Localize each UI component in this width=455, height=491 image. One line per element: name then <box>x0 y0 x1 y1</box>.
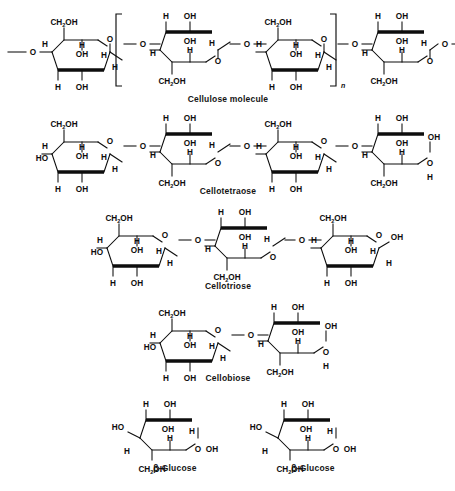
label-oh: OH <box>300 425 312 434</box>
label-ch2oh: CH2OH <box>370 179 397 189</box>
label-oh: OH <box>76 50 88 59</box>
label-oh: OH <box>184 12 196 21</box>
atom-o-ring: O <box>427 57 434 66</box>
atom-h: H <box>281 400 287 409</box>
caption-cellulose: Cellulose molecule <box>188 94 269 104</box>
row-glucose-right: O OH HO CH2OH H OH OH H H H <box>248 396 358 462</box>
label-ch2oh: CH2OH <box>319 214 346 224</box>
atom-h: H <box>399 46 405 55</box>
atom-h: H <box>324 279 330 288</box>
atom-o-ring: O <box>323 348 330 357</box>
label-oh-anomeric: OH <box>206 445 218 454</box>
label-oh: OH <box>184 341 196 350</box>
atom-o-ring: O <box>270 253 277 262</box>
label-oh-terminal: OH <box>428 133 440 142</box>
atom-o-ring: O <box>333 445 340 454</box>
atom-o-ring: O <box>376 231 383 240</box>
label-ch2oh: CH2OH <box>158 77 185 87</box>
label-oh: OH <box>131 279 143 288</box>
label-oh: OH <box>302 400 314 409</box>
atom-h: H <box>262 447 268 456</box>
caption-cellotriose: Cellotriose <box>205 281 251 291</box>
atom-h: H <box>315 153 321 162</box>
atom-h: H <box>55 83 61 92</box>
label-oh: OH <box>396 139 408 148</box>
atom-h: H <box>79 143 85 152</box>
atom-h: H <box>134 237 140 246</box>
label-ho-terminal: HO <box>112 423 125 432</box>
atom-h: H <box>375 114 381 123</box>
label-ch2oh: CH2OH <box>158 309 185 319</box>
atom-o-ring: O <box>215 159 222 168</box>
atom-h: H <box>150 49 156 58</box>
atom-h: H <box>323 362 329 371</box>
atom-h: H <box>256 142 262 151</box>
label-oh: OH <box>292 328 304 337</box>
atom-h: H <box>258 340 264 349</box>
atom-h: H <box>167 434 173 443</box>
atom-h: H <box>326 165 332 174</box>
atom-o-ring: O <box>321 137 328 146</box>
atom-h: H <box>242 242 248 251</box>
atom-h: H <box>264 235 270 244</box>
atom-o-ring: O <box>107 137 114 146</box>
label-oh: OH <box>164 400 176 409</box>
atom-h: H <box>189 427 195 436</box>
atom-h: H <box>150 151 156 160</box>
atom-h: H <box>348 237 354 246</box>
label-ch2oh: CH2OH <box>370 77 397 87</box>
atom-h: H <box>269 185 275 194</box>
atom-h: H <box>269 83 275 92</box>
caption-cellobiose: Cellobiose <box>206 373 251 383</box>
atom-h: H <box>375 12 381 21</box>
label-oh: OH <box>396 37 408 46</box>
atom-o-ring: O <box>162 231 169 240</box>
atom-o-glycosidic: O <box>299 236 306 245</box>
label-oh: OH <box>290 152 302 161</box>
atom-h: H <box>143 400 149 409</box>
atom-h: H <box>209 342 215 351</box>
bracket-close <box>330 14 336 86</box>
atom-h: H <box>209 141 215 150</box>
atom-h: H <box>362 151 368 160</box>
atom-h: H <box>101 153 107 162</box>
atom-h: H <box>271 303 277 312</box>
atom-h: H <box>97 236 103 245</box>
label-oh: OH <box>396 114 408 123</box>
atom-h: H <box>110 279 116 288</box>
atom-h: H <box>187 46 193 55</box>
atom-o-glycosidic: O <box>140 40 147 49</box>
label-oh: OH <box>76 152 88 161</box>
label-oh: OH <box>131 246 143 255</box>
label-n-subscript: n <box>341 82 345 89</box>
label-ch2oh: CH2OH <box>50 120 77 130</box>
label-oh: OH <box>162 425 174 434</box>
label-oh: OH <box>345 246 357 255</box>
label-oh-terminal: OH <box>325 322 337 331</box>
atom-h: H <box>42 142 48 151</box>
label-ch2oh: CH2OH <box>266 368 293 378</box>
atom-h: H <box>124 447 130 456</box>
atom-h: H <box>163 12 169 21</box>
atom-o-ring: O <box>427 159 434 168</box>
atom-h: H <box>163 114 169 123</box>
atom-h: H <box>256 40 262 49</box>
caption-beta-glucose-right: β-Glucose <box>291 463 334 473</box>
label-oh: OH <box>239 208 251 217</box>
cellobiose-svg: HO O CH2OH H H OH H H OH <box>108 307 358 379</box>
row-cellobiose: HO O CH2OH H H OH H H OH <box>108 307 358 379</box>
atom-o-ring: O <box>195 445 202 454</box>
label-oh: OH <box>290 185 302 194</box>
label-oh: OH <box>184 37 196 46</box>
atom-o-ring: O <box>321 35 328 44</box>
atom-h: H <box>167 259 173 268</box>
label-oh: OH <box>76 185 88 194</box>
label-oh: OH <box>396 12 408 21</box>
label-oh: OH <box>239 233 251 242</box>
atom-o-glycosidic: O <box>352 142 359 151</box>
label-ho-terminal: HO <box>250 423 263 432</box>
atom-h: H <box>209 39 215 48</box>
atom-h: H <box>295 337 301 346</box>
label-oh-anomeric: OH <box>344 445 356 454</box>
atom-h: H <box>305 434 311 443</box>
